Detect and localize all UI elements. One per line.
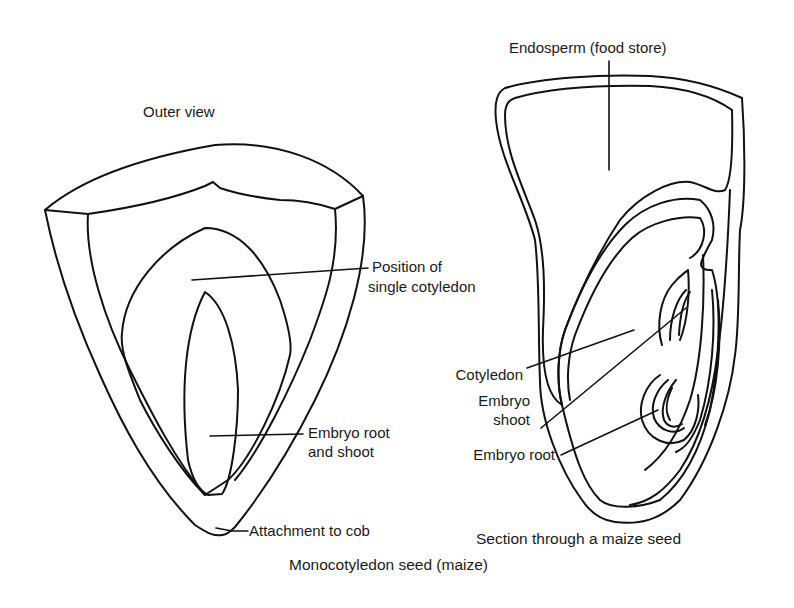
outer-view-seed — [45, 144, 368, 535]
label-position-of-cotyledon-line2: single cotyledon — [368, 278, 476, 296]
leader-cotyledon — [192, 268, 368, 280]
label-position-of-cotyledon-line1: Position of — [372, 258, 442, 276]
figure-caption: Monocotyledon seed (maize) — [289, 556, 488, 574]
label-attachment-to-cob: Attachment to cob — [249, 522, 370, 540]
diagram-drawing — [0, 0, 794, 608]
label-embryo-shoot-line1: Embryo — [450, 392, 530, 410]
outer-seed-top-edge — [45, 144, 363, 210]
embryo-region-inner — [568, 217, 704, 400]
label-cotyledon: Cotyledon — [430, 366, 523, 384]
outer-seed-left-edge — [45, 210, 222, 535]
label-embryo-root: Embryo root — [430, 446, 555, 464]
label-embryo-shoot-line2: shoot — [450, 411, 530, 429]
outer-seed-top-ridge — [45, 182, 363, 214]
label-embryo-root-and-shoot-line2: and shoot — [308, 443, 374, 461]
leader-embryo-root-shoot — [210, 434, 303, 436]
leader-embryo-shoot — [541, 308, 686, 428]
label-embryo-root-and-shoot-line1: Embryo root — [308, 424, 390, 442]
section-view-title: Section through a maize seed — [476, 530, 681, 548]
outer-view-title: Outer view — [143, 103, 215, 121]
embryo-root-inner — [663, 380, 682, 427]
outer-seed-right-edge — [222, 196, 365, 535]
label-endosperm: Endosperm (food store) — [509, 39, 667, 57]
embryo-root-outer — [641, 375, 699, 443]
embryo-shoot-outer — [659, 270, 688, 345]
embryo-region-outer — [558, 199, 718, 507]
scutellum-curve — [630, 190, 730, 505]
cotyledon-outline — [122, 228, 291, 495]
embryo-lens — [184, 292, 238, 495]
leader-embryo-root — [561, 410, 658, 455]
